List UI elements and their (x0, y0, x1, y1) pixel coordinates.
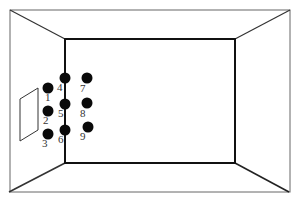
dot-label-1: 1 (45, 91, 51, 103)
edge-top-right (235, 10, 290, 39)
edge-bottom-left (9, 163, 65, 192)
room-diagram: 123456789 (0, 0, 297, 198)
side-panel (20, 88, 38, 141)
edge-top-left (10, 10, 65, 39)
dot-label-5: 5 (58, 107, 64, 119)
dot-label-7: 7 (80, 82, 86, 94)
stimulus-dots: 123456789 (42, 73, 94, 150)
dot-label-2: 2 (43, 114, 49, 126)
dot-label-9: 9 (80, 130, 86, 142)
dot-label-6: 6 (58, 133, 64, 145)
dot-label-3: 3 (42, 137, 48, 149)
outer-frame (10, 10, 290, 192)
dot-label-8: 8 (80, 107, 86, 119)
dot-label-4: 4 (57, 81, 63, 93)
edge-bottom-right (235, 163, 289, 192)
